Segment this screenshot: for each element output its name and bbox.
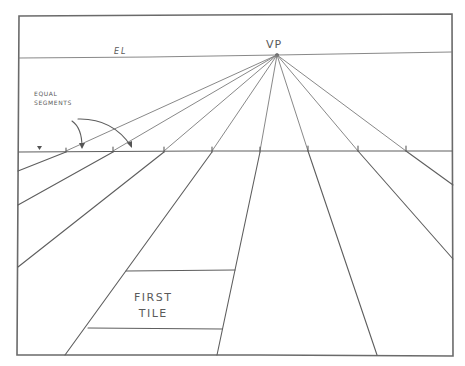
triangle-marker <box>37 146 42 150</box>
perspective-diagram: VP EL EQUAL SEGMENTS FIRST TILE <box>0 0 465 366</box>
equal-segments-label: EQUAL SEGMENTS <box>34 89 72 107</box>
orthogonals-lower <box>18 151 453 355</box>
arrowhead-1 <box>79 143 85 149</box>
vanishing-point-label: VP <box>266 38 282 51</box>
ground-line <box>19 151 452 152</box>
first-tile-label: FIRST TILE <box>134 290 172 322</box>
eye-level-line <box>19 52 452 58</box>
equal-segments-arrows <box>72 119 131 147</box>
eye-level-label: EL <box>114 47 128 56</box>
orthogonals-upper <box>66 55 406 151</box>
diagram-drawing <box>0 0 465 366</box>
